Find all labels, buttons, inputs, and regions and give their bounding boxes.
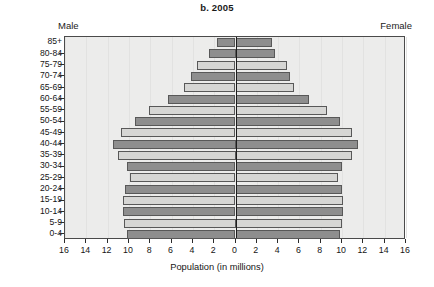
x-tick-label-6: 6: [168, 245, 173, 255]
y-tick-mark: [59, 143, 64, 144]
bar-female-15-19: [236, 196, 344, 205]
x-tick-mark: [64, 239, 65, 243]
bar-female-60-64: [236, 95, 310, 104]
x-tick-mark: [128, 239, 129, 243]
y-tick-mark: [59, 188, 64, 189]
bar-male-40-44: [113, 140, 236, 149]
pyramid-row: [65, 61, 404, 70]
pyramid-row: [65, 38, 404, 47]
chart-title: b. 2005: [0, 2, 434, 13]
pyramid-row: [65, 140, 404, 149]
bar-female-45-49: [236, 128, 352, 137]
x-tick-mark: [85, 239, 86, 243]
bar-male-65-69: [184, 83, 235, 92]
plot-area: [64, 36, 405, 239]
x-tick-label-14: 14: [379, 245, 389, 255]
zero-axis-line: [236, 37, 237, 238]
bar-female-0-4: [236, 230, 340, 239]
x-tick-label-2: 2: [211, 245, 216, 255]
bar-female-55-59: [236, 106, 328, 115]
y-tick-mark: [59, 154, 64, 155]
x-tick-mark: [277, 239, 278, 243]
pyramid-row: [65, 117, 404, 126]
pyramid-row: [65, 162, 404, 171]
x-axis-title: Population (in millions): [0, 262, 434, 272]
bar-female-10-14: [236, 207, 344, 216]
x-tick-label-10: 10: [123, 245, 133, 255]
x-tick-label-16: 16: [400, 245, 410, 255]
x-tick-mark: [256, 239, 257, 243]
y-tick-mark: [59, 166, 64, 167]
x-tick-label-4: 4: [189, 245, 194, 255]
gridline: [406, 37, 407, 238]
y-tick-mark: [59, 98, 64, 99]
pyramid-row: [65, 219, 404, 228]
pyramid-row: [65, 49, 404, 58]
bar-female-80-84: [236, 49, 275, 58]
bar-male-50-54: [135, 117, 235, 126]
pyramid-row: [65, 207, 404, 216]
y-tick-mark: [59, 121, 64, 122]
bar-male-80-84: [209, 49, 236, 58]
bar-male-25-29: [130, 173, 235, 182]
female-series-label: Female: [380, 20, 412, 31]
x-tick-label-4: 4: [275, 245, 280, 255]
x-tick-label-8: 8: [317, 245, 322, 255]
x-tick-mark: [320, 239, 321, 243]
pyramid-row: [65, 95, 404, 104]
male-series-label: Male: [58, 20, 79, 31]
y-tick-mark: [59, 53, 64, 54]
x-tick-mark: [171, 239, 172, 243]
y-tick-mark: [59, 87, 64, 88]
bar-female-70-74: [236, 72, 290, 81]
bar-female-85+: [236, 38, 272, 47]
x-tick-mark: [405, 239, 406, 243]
y-tick-mark: [59, 211, 64, 212]
pyramid-row: [65, 72, 404, 81]
bar-male-30-34: [127, 162, 236, 171]
x-tick-mark: [213, 239, 214, 243]
x-tick-label-14: 14: [80, 245, 90, 255]
bar-male-60-64: [168, 95, 235, 104]
x-tick-label-10: 10: [336, 245, 346, 255]
x-tick-mark: [362, 239, 363, 243]
pyramid-row: [65, 83, 404, 92]
bar-female-30-34: [236, 162, 343, 171]
bar-female-65-69: [236, 83, 295, 92]
y-tick-mark: [59, 75, 64, 76]
bar-female-20-24: [236, 185, 343, 194]
x-tick-label-12: 12: [102, 245, 112, 255]
bar-male-20-24: [125, 185, 236, 194]
y-tick-label-85+: 85+: [47, 36, 62, 46]
x-tick-mark: [149, 239, 150, 243]
bar-female-25-29: [236, 173, 338, 182]
pyramid-row: [65, 230, 404, 239]
bar-male-75-79: [197, 61, 235, 70]
bar-male-5-9: [124, 219, 236, 228]
y-tick-mark: [59, 64, 64, 65]
y-tick-mark: [59, 222, 64, 223]
y-tick-mark: [59, 109, 64, 110]
pyramid-row: [65, 185, 404, 194]
bar-female-75-79: [236, 61, 287, 70]
pyramid-row: [65, 173, 404, 182]
bar-male-10-14: [123, 207, 236, 216]
bar-female-35-39: [236, 151, 352, 160]
pyramid-row: [65, 128, 404, 137]
bar-male-85+: [217, 38, 235, 47]
bar-female-5-9: [236, 219, 343, 228]
x-tick-label-2: 2: [253, 245, 258, 255]
x-tick-label-8: 8: [147, 245, 152, 255]
bar-male-70-74: [191, 72, 236, 81]
y-tick-mark: [59, 200, 64, 201]
x-tick-label-16: 16: [59, 245, 69, 255]
population-pyramid-figure: b. 2005 Male Female 0-45-910-1415-1920-2…: [0, 0, 434, 287]
bar-male-35-39: [118, 151, 235, 160]
x-tick-mark: [298, 239, 299, 243]
bar-male-45-49: [121, 128, 235, 137]
pyramid-row: [65, 151, 404, 160]
x-tick-mark: [341, 239, 342, 243]
bar-male-55-59: [149, 106, 235, 115]
bar-male-15-19: [123, 196, 236, 205]
pyramid-row: [65, 106, 404, 115]
